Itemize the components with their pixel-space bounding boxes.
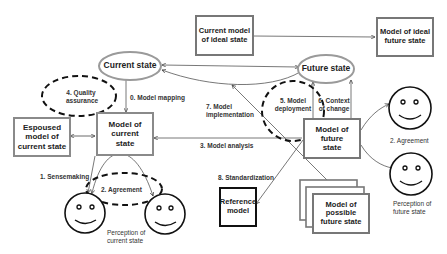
reference-model-box: Reference model [219,187,257,227]
arrow-state-link [162,65,298,67]
model-mapping-label: 0. Model mapping [130,94,185,102]
perception-current-state-label: Perception of current state [107,229,147,245]
current-model-ideal-state-box: Current model of ideal state [195,15,254,56]
model-possible-future-state-box: Model of possible future state [312,193,370,234]
agreement-right-label: 2. Agreement [390,137,429,145]
model-implementation-label: 7. Model implementation [206,103,246,119]
model-analysis-label: 3. Model analysis [200,142,253,150]
smiley-right-bottom-icon [390,153,432,195]
reference-model-label: Reference model [220,198,256,215]
arrow-to-smiley-top [361,104,389,130]
model-current-state-label: Model of current state [101,120,149,148]
model-future-state-label: Model of future state [311,125,353,153]
sensemaking-label: 1. Sensemaking [40,173,89,181]
model-ideal-future-state-box: Model of ideal future state [376,17,434,57]
perception-future-state-label: Perception of future state [393,200,433,216]
smiley-left-2-icon [145,194,185,234]
standardization-label: 8. Standardization [218,174,274,182]
espoused-model-label: Espoused model of current state [17,123,67,151]
arrow-to-smiley-bottom [361,145,392,168]
agreement-left-label: 2. Agreement [101,186,142,194]
future-state-label: Future state [298,63,354,73]
current-state-label: Current state [99,60,161,70]
context-of-change-label: 6. Context of change [318,97,350,113]
current-model-ideal-state-label: Current model of ideal state [197,27,252,44]
diagram-canvas: Current model of ideal state Model of id… [0,0,447,254]
arrow-standardization [256,140,303,204]
arrow-curve-states [162,70,300,85]
model-possible-future-state-label: Model of possible future state [316,201,366,227]
smiley-right-top-icon [389,87,431,129]
smiley-left-1-icon [65,193,105,233]
model-ideal-future-state-label: Model of ideal future state [378,28,432,45]
arrow-ideal [253,36,375,37]
model-future-state-box: Model of future state [303,118,361,159]
espoused-model-box: Espoused model of current state [13,117,71,157]
quality-assurance-label: 4. Quality assurance [66,89,96,105]
model-current-state-box: Model of current state [96,112,154,156]
model-deployment-label: 5. Model deployment [272,97,314,113]
